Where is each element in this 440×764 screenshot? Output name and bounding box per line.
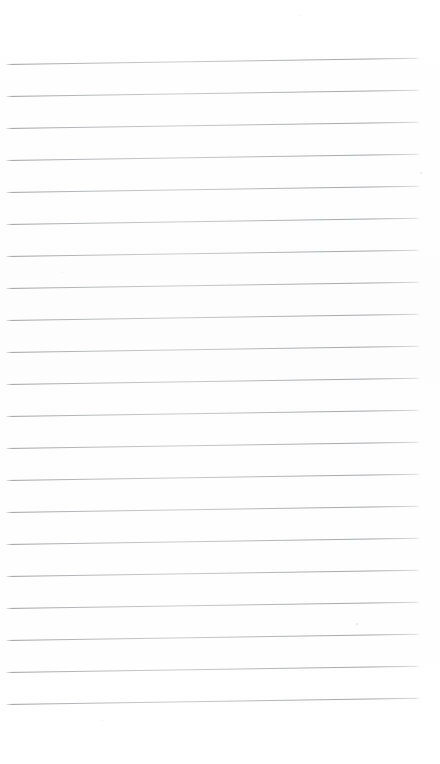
ruled-line <box>0 633 440 641</box>
ruled-line-stroke <box>6 282 420 289</box>
ruled-line-stroke <box>6 122 420 129</box>
ruled-line-stroke <box>6 314 420 321</box>
ruled-line <box>0 601 440 609</box>
ruled-line <box>0 281 440 289</box>
ruled-line-stroke <box>6 90 420 97</box>
ruled-line-stroke <box>6 218 420 225</box>
ruled-line-stroke <box>6 506 420 513</box>
ruled-line <box>0 57 440 65</box>
ruled-line-stroke <box>6 58 420 65</box>
ruled-line-stroke <box>6 538 420 545</box>
ruled-line-stroke <box>6 474 420 481</box>
ruled-line-layer <box>0 0 440 764</box>
ruled-line <box>0 185 440 193</box>
ruled-line <box>0 313 440 321</box>
ruled-line <box>0 473 440 481</box>
ruled-line <box>0 665 440 673</box>
ruled-line-stroke <box>6 250 420 257</box>
ruled-line <box>0 377 440 385</box>
ruled-line-stroke <box>6 154 420 161</box>
ruled-line-stroke <box>6 634 420 641</box>
ruled-line <box>0 441 440 449</box>
ruled-line <box>0 249 440 257</box>
ruled-line-stroke <box>6 666 420 673</box>
ruled-line <box>0 345 440 353</box>
ruled-line <box>0 89 440 97</box>
ruled-line <box>0 569 440 577</box>
ruled-line <box>0 537 440 545</box>
ruled-line-stroke <box>6 602 420 609</box>
ruled-line-stroke <box>6 442 420 449</box>
ruled-line <box>0 121 440 129</box>
ruled-line <box>0 409 440 417</box>
ruled-line-stroke <box>6 698 420 705</box>
ruled-line <box>0 505 440 513</box>
ruled-line-stroke <box>6 410 420 417</box>
ruled-line <box>0 217 440 225</box>
ruled-line <box>0 697 440 705</box>
ruled-line <box>0 153 440 161</box>
ruled-line-stroke <box>6 378 420 385</box>
ruled-line-stroke <box>6 570 420 577</box>
ruled-line-stroke <box>6 346 420 353</box>
ruled-line-stroke <box>6 186 420 193</box>
lined-paper-page <box>0 0 440 764</box>
